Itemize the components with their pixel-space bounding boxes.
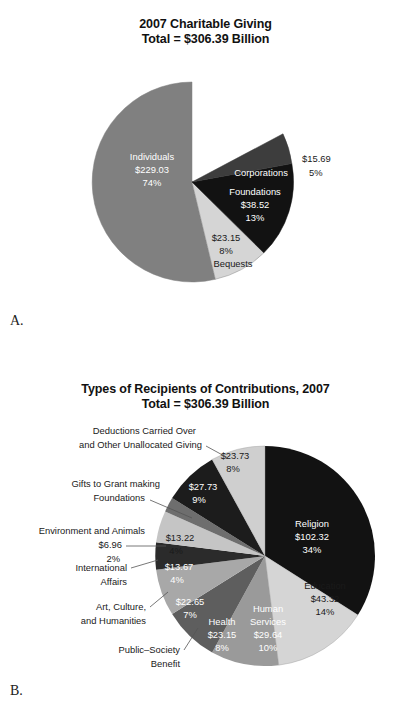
pie-b-label-art-culture-percent: 4% xyxy=(170,574,184,585)
chart-a-subtitle: Total = $306.39 Billion xyxy=(0,32,411,47)
pie-b-label-health-value: $23.15 xyxy=(208,629,237,640)
pie-b-label-education-name: Education xyxy=(304,580,346,591)
pie-a-label-corporations-value: $15.69 xyxy=(302,153,331,164)
pie-chart-b: Religion $102.32 34% Education $43.32 14… xyxy=(0,360,411,706)
pie-a-label-bequests-name: Bequests xyxy=(213,258,252,269)
pie-b-callout-international-line2: Affairs xyxy=(101,576,128,587)
pie-a-label-individuals-value: $229.03 xyxy=(135,164,169,175)
pie-b-callout-gifts-line2: Foundations xyxy=(93,492,145,503)
chart-a-title: 2007 Charitable Giving xyxy=(139,17,272,31)
pie-b-label-education-value: $43.32 xyxy=(311,593,340,604)
pie-b-callout-art-line2: and Humanities xyxy=(81,615,146,626)
pie-b-label-art-culture-value: $13.67 xyxy=(165,561,194,572)
pie-b-label-health-name: Health xyxy=(208,616,235,627)
pie-b-callout-gifts-line1: Gifts to Grant making xyxy=(71,478,160,489)
pie-a-label-foundations-value: $38.52 xyxy=(241,199,270,210)
pie-b-callout-art-line1: Art, Culture, xyxy=(96,601,146,612)
pie-b-callout-deductions-line2: and Other Unallocated Giving xyxy=(79,439,202,450)
pie-b-leader-international xyxy=(131,560,158,568)
pie-b-label-gifts-percent: 9% xyxy=(192,494,206,505)
pie-b-label-health-percent: 8% xyxy=(215,642,229,653)
pie-b-label-public-society-value: $22.65 xyxy=(176,596,205,607)
pie-b-callout-public-line2: Benefit xyxy=(151,658,181,669)
pie-a-label-bequests-value: $23.15 xyxy=(212,232,241,243)
pie-a-label-individuals-percent: 74% xyxy=(143,177,162,188)
pie-b-callout-environment: Environment and Animals xyxy=(39,525,146,536)
pie-b-label-international-value: $13.22 xyxy=(166,532,195,543)
pie-a-label-bequests-percent: 8% xyxy=(219,245,233,256)
panel-letter-b: B. xyxy=(10,683,23,699)
pie-a-label-individuals-name: Individuals xyxy=(130,151,175,162)
pie-b-label-education-percent: 14% xyxy=(316,606,335,617)
pie-b-label-human-services-percent: 10% xyxy=(259,642,278,653)
pie-b-label-religion-name: Religion xyxy=(295,518,329,529)
pie-a-label-corporations-percent: 5% xyxy=(309,167,323,178)
pie-b-label-religion-percent: 34% xyxy=(303,544,322,555)
pie-b-label-human-services-value: $29.64 xyxy=(254,629,283,640)
pie-a-label-foundations-percent: 13% xyxy=(246,212,265,223)
pie-a-label-corporations-name: Corporations xyxy=(234,167,288,178)
pie-b-label-human-services-name-2: Services xyxy=(250,616,286,627)
pie-chart-a: Individuals $229.03 74% Corporations $15… xyxy=(0,50,411,310)
pie-b-callout-public-line1: Public–Society xyxy=(119,644,181,655)
pie-a-label-foundations-name: Foundations xyxy=(229,186,281,197)
pie-b-label-international-percent: 4% xyxy=(169,545,183,556)
pie-b-label-deductions-percent: 8% xyxy=(226,463,240,474)
pie-b-callout-deductions-line1: Deductions Carried Over xyxy=(93,425,196,436)
chart-panel-b: Types of Recipients of Contributions, 20… xyxy=(0,360,411,706)
pie-b-callout-international-line1: International xyxy=(75,562,127,573)
pie-b-label-gifts-value: $27.73 xyxy=(189,481,218,492)
chart-a-title-block: 2007 Charitable Giving Total = $306.39 B… xyxy=(0,17,411,47)
pie-b-label-environment-value: $6.96 xyxy=(99,539,122,550)
pie-b-label-religion-value: $102.32 xyxy=(295,531,329,542)
pie-b-label-human-services-name-1: Human xyxy=(253,603,283,614)
panel-letter-a: A. xyxy=(10,313,24,329)
pie-b-label-public-society-percent: 7% xyxy=(183,609,197,620)
chart-panel-a: 2007 Charitable Giving Total = $306.39 B… xyxy=(0,0,411,360)
